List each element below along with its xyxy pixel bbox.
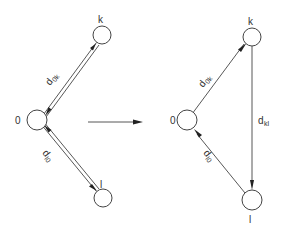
edge-label-d0k: d 0k — [43, 70, 61, 88]
node-l-label: l — [100, 179, 102, 190]
transition-arrow — [88, 120, 143, 125]
svg-text:kl: kl — [264, 120, 270, 127]
left-diagram: k 0 l d 0k d l0 — [15, 14, 112, 207]
node-0 — [27, 110, 47, 130]
edge-k-to-l — [250, 46, 254, 190]
node-0-label: 0 — [170, 115, 176, 126]
arrow-right-icon — [133, 120, 143, 125]
edge-0-to-k — [194, 43, 247, 112]
node-k — [93, 26, 111, 44]
node-k-label: k — [248, 16, 254, 27]
route-merge-diagram: k 0 l d 0k d l0 — [0, 0, 283, 229]
node-l-label: l — [249, 214, 251, 225]
svg-text:d: d — [258, 115, 264, 126]
node-0 — [177, 110, 197, 130]
edge-label-d0k: d 0k — [196, 72, 214, 90]
arrowhead-to-l — [250, 180, 254, 190]
edge-label-dl0: d l0 — [40, 147, 57, 163]
right-diagram: 0 k l d 0k d kl d l0 — [170, 16, 270, 225]
node-l — [94, 189, 112, 207]
node-k-label: k — [98, 14, 104, 25]
node-0-label: 0 — [15, 115, 21, 126]
arrowhead-to-0 — [194, 129, 202, 138]
edge-label-dkl: d kl — [258, 115, 270, 127]
edge-l-to-0 — [194, 129, 245, 193]
node-l — [242, 190, 262, 210]
node-k — [243, 28, 261, 46]
